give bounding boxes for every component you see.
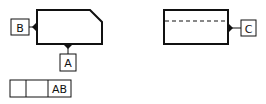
datum-b-triangle-icon <box>32 22 37 32</box>
frame-cell-3: AB <box>52 83 67 96</box>
feature-control-frame: AB <box>10 80 71 97</box>
datum-b-label: B <box>16 22 24 35</box>
left-part-outline <box>37 10 102 44</box>
right-part-outline <box>164 10 228 44</box>
datum-c-symbol: C <box>228 20 256 36</box>
datum-a-label: A <box>64 57 72 70</box>
diagram-canvas: B A AB C <box>0 0 266 104</box>
datum-b-symbol: B <box>11 19 37 35</box>
datum-a-symbol: A <box>60 44 76 71</box>
datum-c-label: C <box>245 23 253 36</box>
